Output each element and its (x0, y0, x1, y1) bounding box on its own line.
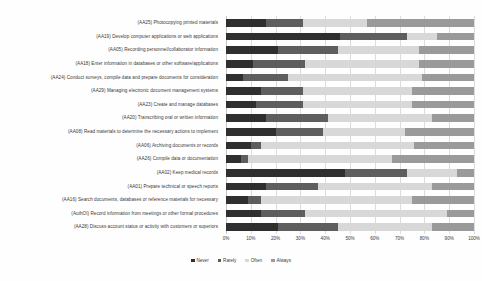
bar-segment-never[interactable] (226, 210, 261, 218)
bar-segment-rarely[interactable] (253, 60, 305, 68)
category-label: (AA23) Create and manage databases (138, 98, 218, 112)
bar-segment-rarely[interactable] (266, 114, 328, 122)
stacked-bar[interactable] (226, 223, 474, 231)
bar-segment-rarely[interactable] (266, 183, 318, 191)
stacked-bar[interactable] (226, 114, 474, 122)
stacked-bar[interactable] (226, 210, 474, 218)
table-row (226, 30, 474, 44)
bar-segment-always[interactable] (414, 142, 474, 150)
bar-segment-always[interactable] (422, 74, 474, 82)
stacked-bar[interactable] (226, 60, 474, 68)
bar-segment-often[interactable] (305, 210, 446, 218)
bar-segment-often[interactable] (338, 223, 432, 231)
legend-item-often[interactable]: Often (245, 258, 262, 263)
bar-segment-often[interactable] (261, 142, 415, 150)
legend-label: Always (276, 258, 291, 263)
bar-segment-often[interactable] (407, 169, 457, 177)
bar-segment-always[interactable] (392, 155, 474, 163)
bar-segment-never[interactable] (226, 142, 251, 150)
category-label: (AA29) Managing electronic document mana… (91, 84, 218, 98)
stacked-bar[interactable] (226, 142, 474, 150)
stacked-bar[interactable] (226, 74, 474, 82)
legend-item-always[interactable]: Always (271, 258, 291, 263)
bar-segment-often[interactable] (248, 155, 392, 163)
table-row (226, 180, 474, 194)
bar-segment-always[interactable] (447, 210, 474, 218)
bar-segment-always[interactable] (412, 87, 474, 95)
table-row (226, 152, 474, 166)
stacked-bar[interactable] (226, 183, 474, 191)
legend-item-rarely[interactable]: Rarely (218, 258, 237, 263)
x-tick-label: 60% (370, 236, 379, 241)
bar-segment-rarely[interactable] (345, 169, 407, 177)
bar-segment-always[interactable] (419, 46, 474, 54)
bar-segment-never[interactable] (226, 60, 253, 68)
bar-segment-never[interactable] (226, 33, 340, 41)
bar-segment-never[interactable] (226, 46, 278, 54)
bar-segment-rarely[interactable] (278, 223, 338, 231)
bar-segment-never[interactable] (226, 196, 248, 204)
bar-segment-always[interactable] (437, 33, 474, 41)
bar-segment-never[interactable] (226, 128, 276, 136)
bar-segment-never[interactable] (226, 101, 256, 109)
stacked-bar[interactable] (226, 33, 474, 41)
table-row (226, 125, 474, 139)
stacked-bar[interactable] (226, 46, 474, 54)
bar-segment-often[interactable] (328, 114, 432, 122)
bar-segment-often[interactable] (303, 101, 412, 109)
bar-segment-never[interactable] (226, 87, 261, 95)
bar-segment-always[interactable] (419, 60, 474, 68)
bar-segment-often[interactable] (318, 183, 432, 191)
bar-segment-rarely[interactable] (278, 46, 338, 54)
bar-segment-never[interactable] (226, 19, 266, 27)
bar-segment-rarely[interactable] (248, 196, 260, 204)
bar-segment-rarely[interactable] (241, 155, 248, 163)
bar-segment-rarely[interactable] (340, 33, 407, 41)
stacked-bar[interactable] (226, 155, 474, 163)
category-label: (AA18) Enter information in databases or… (75, 57, 218, 71)
category-label: (AA05) Recording personnel/collaborator … (108, 43, 218, 57)
bar-segment-often[interactable] (338, 46, 420, 54)
bar-rows (226, 16, 474, 234)
bar-segment-often[interactable] (305, 60, 419, 68)
table-row (226, 84, 474, 98)
bar-segment-rarely[interactable] (261, 87, 303, 95)
legend-swatch-icon (245, 259, 249, 263)
bar-segment-rarely[interactable] (276, 128, 323, 136)
bar-segment-rarely[interactable] (256, 101, 303, 109)
category-label: (AA28) Discuss account status or activit… (74, 220, 218, 234)
bar-segment-always[interactable] (457, 169, 474, 177)
bar-segment-never[interactable] (226, 169, 345, 177)
bar-segment-rarely[interactable] (243, 74, 288, 82)
bar-segment-never[interactable] (226, 114, 266, 122)
stacked-bar[interactable] (226, 19, 474, 27)
bar-segment-always[interactable] (412, 101, 474, 109)
stacked-bar[interactable] (226, 196, 474, 204)
bar-segment-often[interactable] (303, 19, 367, 27)
bar-segment-always[interactable] (432, 114, 474, 122)
bar-segment-always[interactable] (432, 183, 474, 191)
legend-item-never[interactable]: Never (191, 258, 209, 263)
stacked-bar[interactable] (226, 101, 474, 109)
stacked-bar[interactable] (226, 87, 474, 95)
bar-segment-never[interactable] (226, 223, 278, 231)
bar-segment-often[interactable] (323, 128, 405, 136)
stacked-bar[interactable] (226, 128, 474, 136)
bar-segment-often[interactable] (407, 33, 437, 41)
bar-segment-never[interactable] (226, 183, 266, 191)
bar-segment-often[interactable] (288, 74, 422, 82)
bar-segment-always[interactable] (412, 196, 474, 204)
bar-segment-always[interactable] (432, 223, 474, 231)
bar-segment-always[interactable] (367, 19, 474, 27)
bar-segment-rarely[interactable] (251, 142, 261, 150)
stacked-bar[interactable] (226, 169, 474, 177)
category-label: (AA20) Transcribing oral or written info… (122, 111, 218, 125)
bar-segment-rarely[interactable] (261, 210, 306, 218)
bar-segment-never[interactable] (226, 74, 243, 82)
x-tick-label: 70% (395, 236, 404, 241)
bar-segment-always[interactable] (405, 128, 474, 136)
bar-segment-never[interactable] (226, 155, 241, 163)
bar-segment-rarely[interactable] (266, 19, 303, 27)
bar-segment-often[interactable] (261, 196, 412, 204)
bar-segment-often[interactable] (303, 87, 412, 95)
